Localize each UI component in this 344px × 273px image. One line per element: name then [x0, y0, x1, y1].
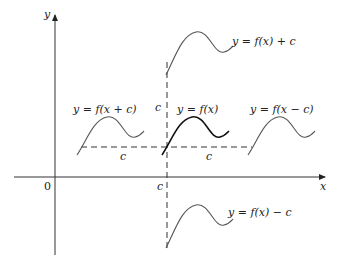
x-axis-label: x: [320, 180, 327, 193]
label-original: y = f(x): [176, 103, 218, 116]
c-label-right: c: [206, 150, 212, 163]
curve-shift-left: [77, 117, 144, 155]
label-shift-right: y = f(x − c): [249, 103, 314, 116]
curve-original: [162, 117, 229, 155]
label-shift-left: y = f(x + c): [72, 103, 137, 116]
origin-label: 0: [44, 180, 51, 193]
c-label-left: c: [120, 150, 126, 163]
shift-diagram: y x 0 c c c c y = f(x) + c y = f(x) y = …: [0, 0, 344, 273]
curve-shift-right: [248, 117, 315, 155]
label-shift-up: y = f(x) + c: [231, 35, 296, 48]
c-label-vertical: c: [155, 101, 161, 114]
c-label-xaxis: c: [157, 180, 163, 193]
label-shift-down: y = f(x) − c: [227, 206, 292, 219]
curve-shift-up: [166, 32, 233, 75]
curve-shift-down: [166, 205, 233, 248]
y-axis-label: y: [43, 8, 51, 21]
